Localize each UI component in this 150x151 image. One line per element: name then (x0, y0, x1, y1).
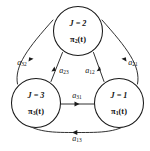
node-state-1-pi: π1(t) (111, 107, 127, 117)
edge-a21-path (102, 20, 138, 84)
edge-a23-arrowhead (51, 67, 55, 72)
edge-a31-label-sub: 31 (76, 94, 82, 100)
markov-diagram: J = 2 π2(t) J = 3 π3(t) J = 1 π1(t) a32 (0, 0, 150, 151)
edge-a13-label: a13 (72, 134, 82, 144)
edge-a12-path (94, 53, 105, 82)
edge-a21-label-sub: 21 (132, 61, 138, 67)
edge-a31-arrowhead (75, 102, 80, 107)
edge-a23-label-sub: 23 (63, 69, 69, 75)
node-state-3-pi: π3(t) (28, 107, 44, 117)
edge-a13-label-sub: 13 (76, 137, 82, 143)
node-state-2[interactable]: J = 2 π2(t) (54, 7, 103, 56)
node-state-2-circle[interactable] (54, 7, 103, 56)
node-state-1-pi-arg: (t) (119, 107, 128, 116)
edge-a12-label-sub: 12 (89, 69, 95, 75)
edge-a23-label: a23 (59, 66, 69, 76)
edge-a32-arrowhead (29, 57, 34, 61)
node-state-2-label: J = 2 (69, 19, 87, 28)
node-state-3[interactable]: J = 3 π3(t) (12, 79, 61, 128)
node-state-1-circle[interactable] (95, 79, 144, 128)
node-state-3-label: J = 3 (27, 91, 45, 100)
edge-a21-label: a21 (128, 58, 138, 68)
markov-diagram-canvas: J = 2 π2(t) J = 3 π3(t) J = 1 π1(t) a32 (0, 0, 150, 151)
node-state-3-pi-arg: (t) (36, 107, 45, 116)
node-state-3-circle[interactable] (12, 79, 61, 128)
edge-a32-label-sub: 32 (21, 61, 27, 67)
node-state-2-pi-arg: (t) (78, 35, 87, 44)
edge-a31 (61, 102, 95, 107)
node-state-2-pi: π2(t) (70, 35, 86, 45)
node-state-1[interactable]: J = 1 π1(t) (95, 79, 144, 128)
edge-a12-label: a12 (85, 66, 95, 76)
edge-a12 (94, 53, 105, 82)
edge-a21-arrowhead (122, 57, 127, 61)
edge-a21 (102, 20, 138, 84)
edge-a32-path (17, 20, 53, 84)
edge-a31-label: a31 (72, 91, 82, 101)
node-state-1-label: J = 1 (110, 91, 128, 100)
edge-a32 (17, 20, 53, 84)
